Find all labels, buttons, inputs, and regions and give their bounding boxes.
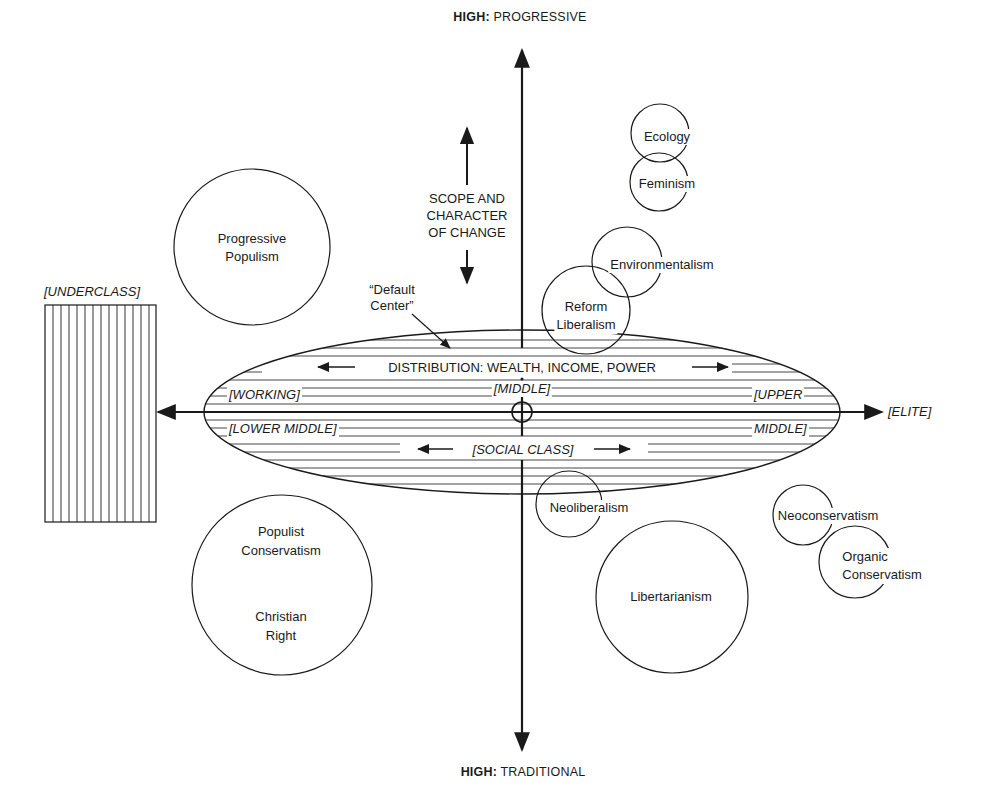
ideology-map-diagram [0, 0, 981, 790]
neoliberalism-label: Neoliberalism [548, 500, 631, 516]
distribution-title: DISTRIBUTION: WEALTH, INCOME, POWER [388, 360, 656, 376]
reform-liberalism-label: Reform Liberalism [554, 298, 617, 334]
underclass-label: [UNDERCLASS] [44, 284, 140, 300]
upper-class-label: [UPPER [752, 387, 804, 403]
lower-middle-class-label: [LOWER MIDDLE] [227, 421, 339, 437]
underclass-box [45, 305, 156, 522]
elite-label: [ELITE] [888, 404, 931, 420]
middle-class-label: [MIDDLE] [492, 381, 552, 397]
working-class-label: [WORKING] [227, 387, 302, 403]
bottom-axis-label: HIGH: TRADITIONAL [461, 764, 586, 780]
feminism-label: Feminism [637, 176, 697, 192]
christian-right-label: Christian Right [255, 607, 306, 645]
organic-conservatism-label: Organic Conservatism [840, 548, 923, 584]
environmentalism-label: Environmentalism [608, 257, 715, 273]
ecology-label: Ecology [642, 129, 692, 145]
populist-conservatism-label: Populist Conservatism [241, 522, 320, 560]
scope-of-change-label: SCOPE AND CHARACTER OF CHANGE [427, 190, 508, 241]
default-center-label: “Default Center” [369, 282, 415, 314]
neoconservatism-label: Neoconservatism [776, 508, 880, 524]
libertarianism-label: Libertarianism [630, 589, 712, 605]
progressive-populism-label: Progressive Populism [218, 230, 287, 266]
social-class-label: [SOCIAL CLASS] [473, 442, 574, 458]
upper-middle-class-label: MIDDLE] [752, 421, 809, 437]
top-axis-label: HIGH: PROGRESSIVE [453, 9, 586, 25]
